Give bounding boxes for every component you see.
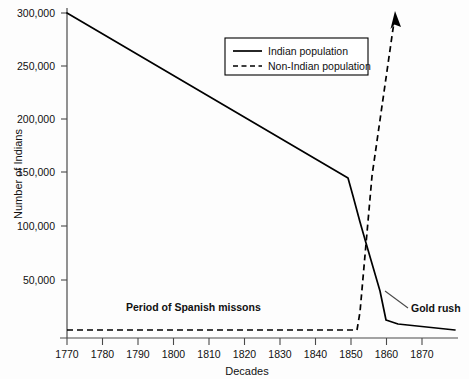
x-tick-label-1780: 1780 (91, 348, 115, 360)
y-axis-ticks (61, 13, 67, 280)
x-tick-label-1870: 1870 (410, 348, 434, 360)
x-tick-label-1840: 1840 (304, 348, 328, 360)
non-indian-population-arrowhead (391, 11, 402, 29)
x-tick-label-1790: 1790 (126, 348, 150, 360)
x-tick-label-1770: 1770 (55, 348, 79, 360)
x-axis-title: Decades (225, 365, 269, 377)
population-line-chart: 50,000 100,000 150,000 200,000 250,000 3… (0, 0, 469, 379)
gold-rush-leader-line (385, 291, 408, 308)
x-tick-label-1800: 1800 (162, 348, 186, 360)
x-tick-label-1830: 1830 (268, 348, 292, 360)
x-tick-label-1860: 1860 (375, 348, 399, 360)
x-axis-ticks (67, 338, 422, 345)
y-tick-label-300000: 300,000 (17, 7, 55, 19)
annotation-spanish-missions: Period of Spanish missons (126, 301, 261, 313)
chart-page: 50,000 100,000 150,000 200,000 250,000 3… (0, 0, 469, 379)
x-tick-label-1810: 1810 (197, 348, 221, 360)
chart-legend[interactable]: Indian population Non-Indian population (225, 38, 371, 75)
legend-label-indian-population: Indian population (268, 45, 348, 57)
y-tick-label-100000: 100,000 (17, 220, 55, 232)
y-tick-label-200000: 200,000 (17, 113, 55, 125)
y-tick-label-250000: 250,000 (17, 60, 55, 72)
x-axis-tick-labels: 1770 1780 1790 1800 1810 1820 1830 1840 … (55, 348, 434, 360)
x-tick-label-1850: 1850 (339, 348, 363, 360)
x-tick-label-1820: 1820 (233, 348, 257, 360)
y-tick-label-50000: 50,000 (23, 274, 55, 286)
y-axis-title: Number of Indians (12, 129, 24, 219)
legend-label-non-indian-population: Non-Indian population (268, 60, 371, 72)
annotation-gold-rush: Gold rush (411, 302, 461, 314)
